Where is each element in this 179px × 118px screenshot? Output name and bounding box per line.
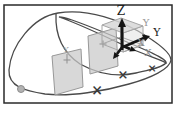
space-curve-figure: Y <box>0 0 179 118</box>
normal-plane-middle <box>88 28 118 74</box>
curve-point-cross-1: × <box>91 82 103 98</box>
y-axis-gray-label: Y <box>142 17 150 28</box>
y-axis-label: Y <box>152 26 161 39</box>
figure-canvas: Y <box>0 0 179 118</box>
curve-point-cross-3: × <box>147 62 156 75</box>
x-axis-gray-label-lower: X <box>144 47 152 58</box>
curve-point-cross-2: × <box>118 67 129 82</box>
z-axis-label: Z <box>117 4 125 18</box>
curve-point-dot <box>18 86 25 93</box>
plane-left-y-label: Y <box>62 45 69 54</box>
normal-plane-middle-face <box>88 28 118 74</box>
